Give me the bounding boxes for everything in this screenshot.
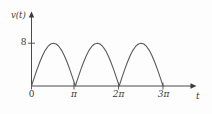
y-tick-label-8: 8 [19, 38, 28, 47]
x-tick-label-3pi: 3π [155, 90, 172, 99]
y-axis-arrowhead [29, 12, 34, 18]
x-tick-label-2pi: 2π [110, 90, 127, 99]
x-tick-label-0: 0 [27, 90, 36, 99]
rectified-sine-curve [32, 43, 164, 86]
x-tick-label-pi: π [68, 90, 80, 99]
x-axis-label: t [196, 92, 200, 101]
rectified-sine-wave-figure: v(t) t 8 0 π 2π 3π [0, 0, 212, 114]
y-axis-label: v(t) [11, 11, 26, 20]
x-axis-arrowhead [191, 83, 197, 88]
